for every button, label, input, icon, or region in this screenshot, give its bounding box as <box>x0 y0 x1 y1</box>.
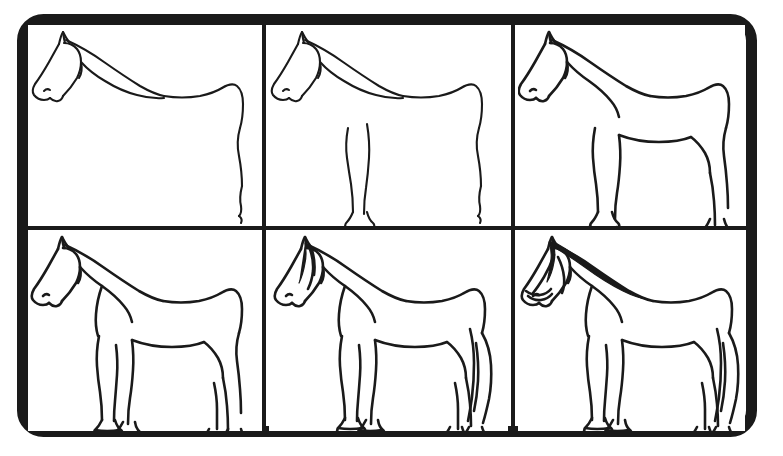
tutorial-panel-5 <box>269 233 508 431</box>
horse-drawing-step-2 <box>269 25 508 226</box>
horse-drawing-step-5 <box>269 233 508 431</box>
tutorial-panel-1 <box>28 25 262 226</box>
horse-drawing-step-1 <box>28 25 262 226</box>
tutorial-panel-4 <box>28 233 262 431</box>
drawing-tutorial-figure: How to Draw a Horse - Step by Step Six-p… <box>0 0 783 456</box>
tutorial-panel-3 <box>518 25 745 226</box>
tutorial-panel-2 <box>269 25 508 226</box>
horse-drawing-step-6 <box>518 233 745 431</box>
tutorial-panel-6 <box>518 233 745 431</box>
horse-drawing-step-4 <box>28 233 262 431</box>
horse-drawing-step-3 <box>518 25 745 226</box>
